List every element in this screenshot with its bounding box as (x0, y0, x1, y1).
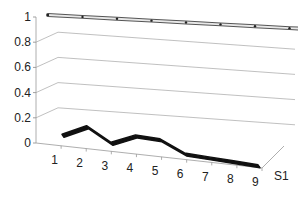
chart: 00.20.40.60.81 123456789 S1 (0, 0, 298, 198)
gridline (36, 57, 295, 74)
y-tick-label: 0.8 (14, 35, 31, 49)
y-tick-label: 0.6 (14, 60, 31, 74)
x-tick-label: 6 (177, 167, 184, 181)
gridlines (36, 32, 295, 125)
y-tick-label: 0 (24, 136, 31, 150)
series-S1-line (62, 126, 260, 168)
gridline (36, 83, 295, 100)
gridline (36, 32, 295, 49)
x-tick-label: 9 (252, 175, 259, 189)
x-tick-label: 7 (202, 170, 209, 184)
depth-axis-label: S1 (274, 169, 289, 183)
y-tick-labels: 00.20.40.60.81 (14, 10, 31, 150)
x-tick-label: 2 (76, 156, 83, 170)
y-tick-label: 0.2 (14, 111, 31, 125)
x-tick-label: 4 (127, 161, 134, 175)
y-tick-label: 0.4 (14, 86, 31, 100)
x-tick-label: 3 (101, 159, 108, 173)
y-tick-label: 1 (24, 10, 31, 24)
x-tick-labels: 123456789 (51, 153, 259, 189)
gridline (36, 108, 295, 125)
axes (33, 17, 284, 171)
x-tick-label: 8 (227, 172, 234, 186)
x-tick-label: 1 (51, 153, 58, 167)
x-tick-label: 5 (152, 164, 159, 178)
